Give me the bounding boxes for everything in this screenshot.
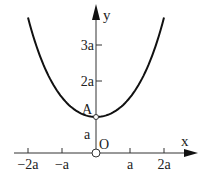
point-a bbox=[94, 115, 99, 120]
x-axis-label: x bbox=[181, 133, 189, 149]
y-axis-label: y bbox=[103, 7, 111, 23]
x-tick-label: −2a bbox=[17, 157, 39, 172]
y-tick-label: 2a bbox=[81, 74, 95, 89]
x-axis-arrow-icon bbox=[184, 149, 198, 157]
x-tick-label: a bbox=[127, 157, 134, 172]
y-axis-arrow-icon bbox=[92, 4, 100, 20]
catenary-diagram: −2a−aa2a2a3a x y O A a bbox=[0, 0, 210, 177]
x-tick-label: −a bbox=[55, 157, 70, 172]
x-tick-label: 2a bbox=[157, 157, 171, 172]
point-a-label: A bbox=[82, 102, 93, 117]
y-tick-label: 3a bbox=[81, 38, 95, 53]
segment-a-label: a bbox=[84, 127, 91, 142]
origin-label: O bbox=[99, 137, 109, 152]
